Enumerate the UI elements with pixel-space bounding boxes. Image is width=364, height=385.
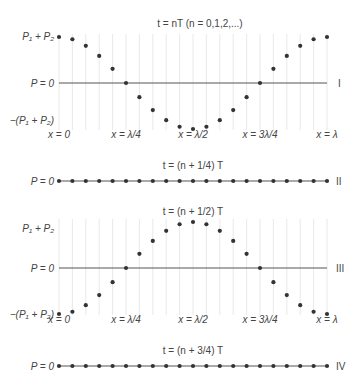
panel-I-label-top: P₁ + P₂ [22, 31, 54, 42]
panel-III-x-labels: x = 0x = λ/4x = λ/2x = 3λ/4x = λ [47, 314, 338, 325]
pressure-point [84, 364, 88, 368]
panel-IV-label-zero: P = 0 [31, 361, 55, 372]
pressure-point [84, 44, 88, 48]
pressure-point [231, 239, 235, 243]
panel-II-label-zero: P = 0 [31, 176, 55, 187]
pressure-point [285, 293, 289, 297]
pressure-point [325, 179, 329, 183]
x-label: x = λ/4 [110, 129, 141, 140]
pressure-point [271, 179, 275, 183]
pressure-point [191, 179, 195, 183]
pressure-point [151, 179, 155, 183]
pressure-point [70, 364, 74, 368]
panel-III-label-top: P₁ + P₂ [22, 223, 54, 234]
pressure-point [258, 179, 262, 183]
pressure-point [137, 179, 141, 183]
pressure-point [271, 364, 275, 368]
x-label: x = λ/2 [177, 314, 208, 325]
x-label: x = λ [315, 129, 337, 140]
pressure-point [312, 310, 316, 314]
pressure-point [164, 179, 168, 183]
pressure-point [137, 364, 141, 368]
panel-I-label-zero: P = 0 [31, 78, 55, 89]
pressure-point [325, 35, 329, 39]
pressure-point [124, 266, 128, 270]
pressure-point [245, 179, 249, 183]
pressure-point [285, 179, 289, 183]
panel-III-label-zero: P = 0 [31, 263, 55, 274]
pressure-point [218, 179, 222, 183]
pressure-point [57, 179, 61, 183]
pressure-point [84, 303, 88, 307]
panel-I: t = nT (n = 0,1,2,...) P₁ + P₂ P = 0 −(P… [10, 18, 341, 140]
panel-III: t = (n + 1/2) T P₁ + P₂ P = 0 −(P₁ + P₂)… [10, 206, 345, 325]
pressure-point [151, 364, 155, 368]
pressure-point [111, 280, 115, 284]
panel-II-roman: II [336, 176, 342, 187]
panel-III-gridlines [59, 219, 327, 315]
pressure-point [204, 364, 208, 368]
pressure-point [124, 179, 128, 183]
pressure-point [285, 364, 289, 368]
panel-IV: t = (n + 3/4) T P = 0 IV [31, 345, 346, 372]
pressure-point [298, 303, 302, 307]
x-label: x = 3λ/4 [241, 129, 278, 140]
panel-II: t = (n + 1/4) T P = 0 II [31, 160, 342, 187]
panel-I-label-bottom: −(P₁ + P₂) [10, 115, 54, 126]
pressure-point [271, 67, 275, 71]
pressure-point [204, 179, 208, 183]
pressure-point [218, 229, 222, 233]
pressure-point [191, 364, 195, 368]
pressure-point [164, 229, 168, 233]
pressure-point [204, 222, 208, 226]
panel-I-gridlines [59, 34, 327, 130]
pressure-point [231, 108, 235, 112]
panel-II-title: t = (n + 1/4) T [163, 160, 223, 171]
pressure-point [312, 179, 316, 183]
pressure-point [258, 81, 262, 85]
pressure-point [245, 364, 249, 368]
pressure-point [218, 364, 222, 368]
pressure-point [57, 35, 61, 39]
pressure-point [178, 179, 182, 183]
pressure-point [111, 67, 115, 71]
pressure-point [298, 364, 302, 368]
pressure-point [245, 252, 249, 256]
panel-III-title: t = (n + 1/2) T [163, 206, 223, 217]
x-label: x = λ/2 [177, 129, 208, 140]
pressure-point [218, 118, 222, 122]
pressure-point [298, 179, 302, 183]
panel-III-roman: III [336, 263, 344, 274]
pressure-point [97, 364, 101, 368]
x-label: x = 0 [47, 314, 70, 325]
panel-I-title: t = nT (n = 0,1,2,...) [157, 18, 242, 29]
pressure-point [231, 179, 235, 183]
standing-wave-pressure-diagram: t = nT (n = 0,1,2,...) P₁ + P₂ P = 0 −(P… [0, 0, 364, 385]
pressure-point [70, 310, 74, 314]
panel-IV-title: t = (n + 3/4) T [163, 345, 223, 356]
pressure-point [178, 364, 182, 368]
pressure-point [271, 280, 275, 284]
pressure-point [312, 364, 316, 368]
pressure-point [298, 44, 302, 48]
pressure-point [164, 118, 168, 122]
pressure-point [164, 364, 168, 368]
pressure-point [111, 364, 115, 368]
x-label: x = λ [315, 314, 337, 325]
panel-II-dots [57, 179, 329, 183]
pressure-point [312, 37, 316, 41]
pressure-point [325, 364, 329, 368]
panel-IV-roman: IV [336, 361, 346, 372]
pressure-point [151, 239, 155, 243]
pressure-point [70, 179, 74, 183]
pressure-point [84, 179, 88, 183]
pressure-point [57, 364, 61, 368]
panel-I-x-labels: x = 0x = λ/4x = λ/2x = 3λ/4x = λ [47, 129, 338, 140]
pressure-point [97, 293, 101, 297]
pressure-point [97, 179, 101, 183]
pressure-point [258, 364, 262, 368]
pressure-point [137, 95, 141, 99]
pressure-point [258, 266, 262, 270]
pressure-point [97, 54, 101, 58]
panel-IV-dots [57, 364, 329, 368]
